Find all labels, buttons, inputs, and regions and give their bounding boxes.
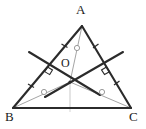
vertex-label-A: A: [76, 3, 85, 16]
marker-on-cevian-C: [99, 89, 104, 94]
vertex-label-B: B: [5, 110, 14, 123]
geometry-figure: [0, 0, 146, 129]
marker-on-cevian-B: [41, 89, 46, 94]
center-label-O: O: [61, 57, 70, 69]
point-O: [68, 80, 71, 83]
vertex-label-C: C: [129, 110, 138, 123]
figure-background: [0, 0, 146, 129]
marker-on-cevian-A: [74, 45, 79, 50]
